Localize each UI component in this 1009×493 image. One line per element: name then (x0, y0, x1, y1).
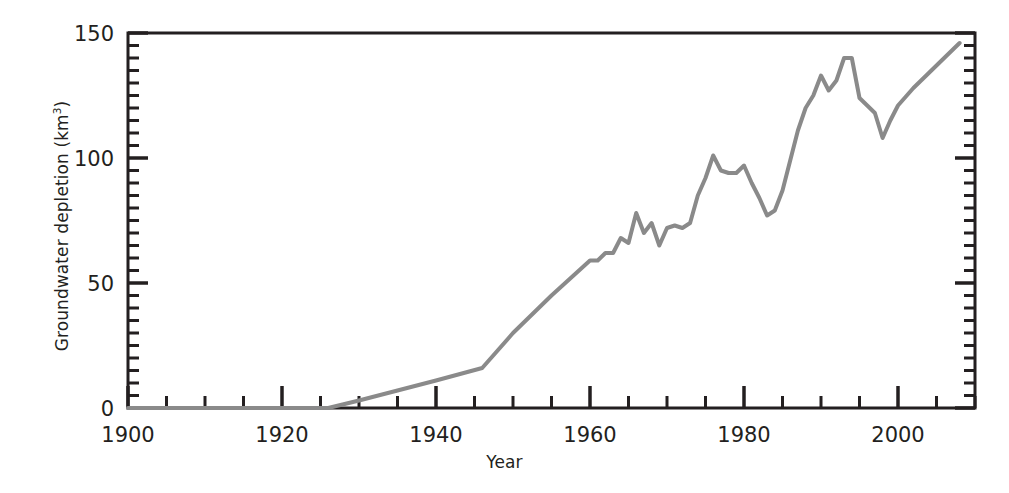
x-axis-tick-label: 1940 (409, 423, 462, 447)
chart-figure: 050100150190019201940196019802000 Ground… (0, 0, 1009, 493)
data-series-line (128, 43, 960, 408)
plot-frame (128, 33, 975, 408)
y-axis-title-base: Groundwater depletion (km (52, 114, 72, 351)
y-axis-tick-label: 0 (101, 397, 114, 421)
line-chart-canvas: 050100150190019201940196019802000 (0, 0, 1009, 493)
y-axis-tick-label: 100 (74, 147, 114, 171)
y-axis-tick-label: 50 (87, 272, 114, 296)
y-axis-tick-label: 150 (74, 22, 114, 46)
x-axis-title: Year (0, 452, 1009, 472)
x-axis-tick-label: 1900 (101, 423, 154, 447)
x-axis-tick-label: 2000 (871, 423, 924, 447)
y-axis-title-suffix: ) (52, 101, 72, 108)
y-axis-title: Groundwater depletion (km3) (52, 46, 72, 406)
x-axis-tick-label: 1960 (563, 423, 616, 447)
x-axis-tick-label: 1980 (717, 423, 770, 447)
y-axis-title-exponent: 3 (51, 107, 63, 114)
x-axis-tick-label: 1920 (255, 423, 308, 447)
